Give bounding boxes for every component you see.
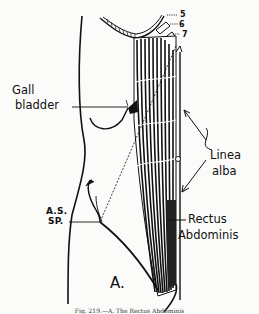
body-outline-left [68,16,85,304]
asis-label-2: SP. [48,217,63,226]
rib-label-6: 6 [179,21,185,29]
costal-cartilage [100,16,164,38]
gall-bladder-shape [128,100,138,114]
asis-label-1: A.S. [46,207,67,216]
rib-label-7: 7 [182,31,188,39]
linea-alba-label-2: alba [212,166,237,178]
panel-label: A. [110,276,125,291]
rectus-label-1: Rectus [188,214,227,226]
gall-bladder-label-1: Gall [12,85,34,97]
rib-label-5: 5 [180,11,186,19]
linea-alba-label-1: Linea [210,150,241,162]
gall-bladder-label-2: bladder [15,100,59,112]
figure-caption: Fig. 219.—A. The Rectus Abdominis [0,307,259,314]
rectus-label-2: Abdominis [178,230,238,242]
